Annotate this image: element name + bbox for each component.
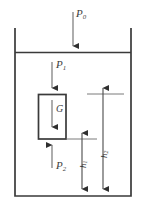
label-p0-base: P bbox=[76, 7, 83, 19]
label-h2: h2 bbox=[100, 151, 110, 158]
label-p0-sub: 0 bbox=[83, 13, 86, 20]
label-h1-sub: 1 bbox=[82, 161, 88, 164]
label-h2-sub: 2 bbox=[103, 151, 109, 154]
label-p1: P1 bbox=[56, 59, 66, 72]
label-h1-base: h bbox=[78, 164, 88, 169]
dimension-line-h2 bbox=[87, 88, 124, 189]
label-h1: h1 bbox=[79, 161, 89, 168]
label-p1-base: P bbox=[56, 58, 63, 70]
label-h2-base: h bbox=[99, 154, 109, 159]
label-p2: P2 bbox=[56, 160, 66, 173]
label-p2-base: P bbox=[56, 159, 63, 171]
label-p1-sub: 1 bbox=[63, 64, 66, 71]
diagram-svg bbox=[0, 0, 146, 213]
label-g-base: G bbox=[56, 103, 63, 114]
figure-canvas: P0 P1 G P2 h1 h2 bbox=[0, 0, 146, 213]
label-p0: P0 bbox=[76, 8, 86, 21]
label-p2-sub: 2 bbox=[63, 165, 66, 172]
label-g: G bbox=[56, 104, 63, 114]
